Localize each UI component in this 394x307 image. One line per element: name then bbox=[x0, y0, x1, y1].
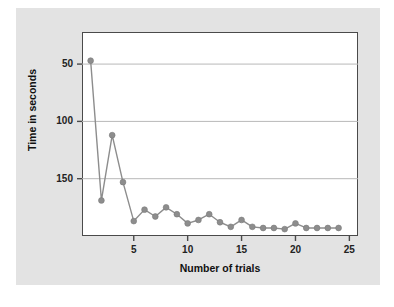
x-tick-label: 15 bbox=[230, 244, 254, 255]
x-tick-label: 5 bbox=[122, 244, 146, 255]
data-series-group bbox=[88, 58, 342, 232]
chart-screenshot: Time in seconds Number of trials 1501005… bbox=[0, 0, 394, 307]
axis-ticks-group bbox=[77, 64, 349, 241]
x-tick-label: 25 bbox=[337, 244, 361, 255]
y-tick-label: 50 bbox=[45, 58, 73, 69]
x-tick-label: 10 bbox=[176, 244, 200, 255]
y-tick-label: 150 bbox=[45, 173, 73, 184]
x-tick-label: 20 bbox=[283, 244, 307, 255]
y-axis-title: Time in seconds bbox=[26, 50, 38, 170]
plot-svg bbox=[0, 0, 394, 307]
y-tick-label: 100 bbox=[45, 115, 73, 126]
x-axis-title: Number of trials bbox=[82, 262, 358, 274]
gridlines-group bbox=[82, 64, 358, 179]
